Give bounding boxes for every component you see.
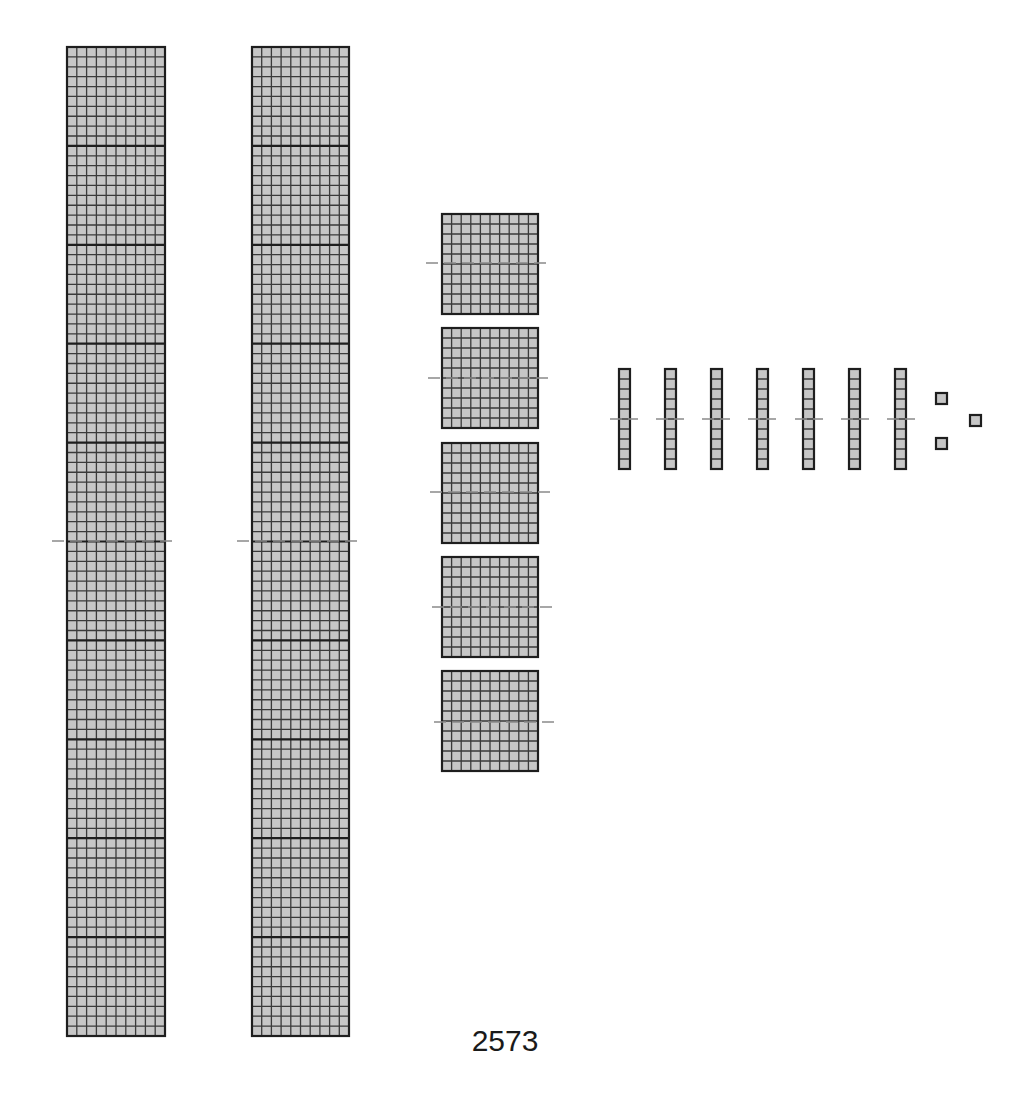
ten-rod: [610, 369, 638, 469]
ten-rod: [702, 369, 730, 469]
ten-rod: [887, 369, 915, 469]
one-unit: [970, 415, 981, 426]
hundred-flat: [432, 557, 556, 657]
hundred-flat: [434, 671, 558, 771]
thousand-block: [52, 47, 177, 1036]
ten-rod: [795, 369, 823, 469]
base-ten-blocks-diagram: [0, 0, 1024, 1105]
tens-rods: [610, 369, 915, 469]
one-unit: [936, 393, 947, 404]
ones-units: [936, 393, 981, 449]
ten-rod: [841, 369, 869, 469]
ten-rod: [656, 369, 684, 469]
thousands-blocks: [52, 47, 362, 1036]
hundreds-flats: [426, 214, 558, 771]
hundred-flat: [430, 443, 554, 543]
thousand-block: [237, 47, 362, 1036]
hundred-flat: [428, 328, 552, 428]
ten-rod: [748, 369, 776, 469]
one-unit: [936, 438, 947, 449]
number-label: 2573: [445, 1024, 565, 1058]
hundred-flat: [426, 214, 550, 314]
